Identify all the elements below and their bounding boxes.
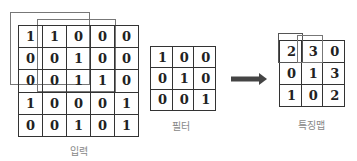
input-cell: 0 <box>67 26 91 48</box>
table-row: 1 0 0 0 1 <box>19 92 139 114</box>
feature-cell: 0 <box>280 63 302 85</box>
input-cell: 0 <box>19 70 43 92</box>
input-cell: 1 <box>67 114 91 136</box>
filter-cell: 0 <box>151 68 173 89</box>
feature-map-label: 특징맵 <box>298 117 325 132</box>
filter-matrix: 1 0 0 0 1 0 0 0 1 <box>150 46 216 111</box>
input-cell: 0 <box>115 26 139 48</box>
filter-cell: 1 <box>151 47 173 68</box>
table-row: 1 1 0 0 0 <box>19 26 139 48</box>
input-cell: 0 <box>115 48 139 70</box>
feature-cell: 3 <box>323 63 345 85</box>
table-row: 0 1 0 <box>151 68 216 89</box>
filter-cell: 1 <box>172 68 194 89</box>
input-cell: 0 <box>43 114 67 136</box>
input-cell: 0 <box>19 48 43 70</box>
feature-cell: 1 <box>280 85 302 107</box>
filter-cell: 0 <box>151 89 173 110</box>
input-matrix: 1 1 0 0 0 0 0 1 0 0 0 0 1 1 0 1 0 0 0 1 … <box>18 25 139 137</box>
input-cell: 1 <box>43 26 67 48</box>
input-cell: 1 <box>19 92 43 114</box>
input-cell: 0 <box>43 92 67 114</box>
input-cell: 1 <box>67 48 91 70</box>
table-row: 0 0 1 0 1 <box>19 114 139 136</box>
table-row: 0 0 1 1 0 <box>19 70 139 92</box>
input-cell: 0 <box>115 70 139 92</box>
input-cell: 1 <box>19 26 43 48</box>
input-cell: 0 <box>91 26 115 48</box>
filter-cell: 0 <box>172 47 194 68</box>
filter-label: 필터 <box>172 118 190 133</box>
feature-cell: 0 <box>323 41 345 63</box>
table-row: 0 0 1 0 0 <box>19 48 139 70</box>
input-cell: 0 <box>19 114 43 136</box>
input-cell: 1 <box>91 70 115 92</box>
filter-cell: 0 <box>172 89 194 110</box>
input-cell: 0 <box>43 70 67 92</box>
feature-cell: 1 <box>301 63 323 85</box>
table-row: 0 0 1 <box>151 89 216 110</box>
arrow-right-icon <box>231 73 267 85</box>
input-cell: 0 <box>67 92 91 114</box>
feature-window-2 <box>297 35 323 63</box>
input-label: 입력 <box>70 143 88 158</box>
input-cell: 1 <box>67 70 91 92</box>
input-cell: 1 <box>115 114 139 136</box>
feature-cell: 2 <box>323 85 345 107</box>
filter-cell: 0 <box>194 68 216 89</box>
table-row: 1 0 2 <box>280 85 345 107</box>
input-cell: 0 <box>43 48 67 70</box>
filter-cell: 1 <box>194 89 216 110</box>
feature-cell: 0 <box>301 85 323 107</box>
input-cell: 1 <box>115 92 139 114</box>
input-cell: 0 <box>91 92 115 114</box>
input-cell: 0 <box>91 114 115 136</box>
input-cell: 0 <box>91 48 115 70</box>
filter-cell: 0 <box>194 47 216 68</box>
table-row: 0 1 3 <box>280 63 345 85</box>
table-row: 1 0 0 <box>151 47 216 68</box>
